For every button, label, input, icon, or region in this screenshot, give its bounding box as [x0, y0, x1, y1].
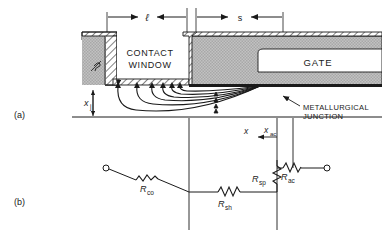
panel-a-label: (a) [14, 110, 25, 120]
left-terminal-node[interactable] [103, 165, 109, 171]
resistor-r-co: R co [103, 165, 189, 196]
circuit-tie-lines [189, 118, 293, 230]
r-co-subscript: co [147, 189, 154, 196]
dimension-spacing-label: s [238, 13, 243, 23]
metallurgical-junction-line2: JUNCTION [303, 112, 343, 121]
x-axis-label: x [243, 126, 249, 136]
contact-window-region: CONTACT WINDOW [117, 32, 183, 85]
r-sh-subscript: sh [225, 204, 232, 211]
x-ac-subscript: ac [270, 131, 276, 137]
r-sp-subscript: sp [259, 179, 266, 187]
right-terminal-node[interactable] [324, 165, 330, 171]
contact-window-label-line1: CONTACT [126, 48, 173, 58]
junction-depth-dimension: x j [83, 90, 93, 116]
gate-electrode: GATE [258, 49, 382, 72]
dimension-length-label: ℓ [144, 12, 149, 23]
dimension-contact-length: ℓ [108, 12, 186, 23]
left-contact-metal-stack [82, 32, 117, 85]
diagram-svg: ℓ s CONTACT WINDOW GATE [0, 0, 382, 233]
contact-window-label-line2: WINDOW [128, 60, 171, 70]
current-flow-lines [118, 86, 260, 111]
metallurgical-junction-line1: METALLURGICAL [303, 103, 369, 112]
dimension-spacing: s [197, 13, 282, 23]
figure-canvas: ℓ s CONTACT WINDOW GATE [0, 0, 382, 233]
x-axis-annotation: x x ac [243, 125, 277, 137]
junction-depth-label: x [83, 98, 89, 108]
gate-label: GATE [303, 57, 332, 68]
panel-b-label: (b) [14, 197, 25, 207]
r-ac-label: R [281, 172, 288, 182]
x-ac-label: x [263, 125, 269, 135]
r-sh-label: R [218, 199, 225, 209]
resistor-r-sh: R sh [189, 187, 277, 211]
junction-depth-subscript: j [89, 103, 91, 111]
r-ac-subscript: ac [288, 177, 296, 184]
resistor-r-ac: R ac [277, 163, 330, 184]
r-sp-label: R [252, 174, 259, 184]
r-co-label: R [140, 184, 147, 194]
